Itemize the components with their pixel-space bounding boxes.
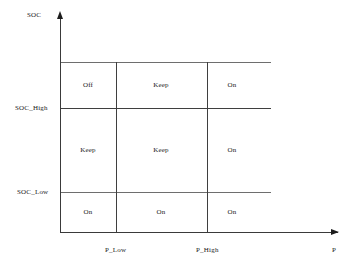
gridline-top [61, 62, 271, 63]
cell-bottom-right: On [228, 208, 237, 216]
x-axis-title: P [332, 246, 336, 254]
cell-middle-right: On [228, 146, 237, 154]
cell-top-left: Off [83, 81, 93, 89]
y-axis-arrow-icon [57, 11, 63, 19]
y-tick-label-soc-high: SOC_High [15, 104, 48, 112]
x-tick-label-p-low: P_Low [105, 246, 126, 254]
x-axis-line [60, 232, 338, 233]
cell-bottom-middle: On [157, 208, 166, 216]
cell-middle-left: Keep [80, 146, 96, 154]
x-tick-label-p-high: P_High [196, 246, 219, 254]
chart-canvas: SOC P SOC_High SOC_Low P_Low P_High Off … [0, 0, 358, 271]
y-axis-title: SOC [27, 11, 41, 19]
gridline-soc-high [61, 108, 271, 109]
y-tick-label-soc-low: SOC_Low [17, 188, 48, 196]
cell-top-middle: Keep [153, 81, 169, 89]
gridline-soc-low [61, 192, 271, 193]
cell-bottom-left: On [84, 208, 93, 216]
gridline-p-high [207, 62, 208, 232]
gridline-p-low [116, 62, 117, 232]
x-axis-arrow-icon [331, 229, 339, 235]
y-axis-line [60, 18, 61, 233]
cell-middle-middle: Keep [153, 146, 169, 154]
cell-top-right: On [228, 81, 237, 89]
